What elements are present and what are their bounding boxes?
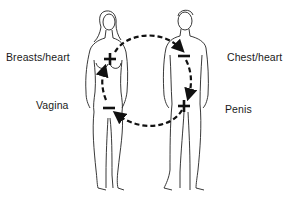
pole-signs [103, 53, 190, 112]
plus-sign-woman-breasts [104, 53, 116, 65]
label-vagina: Vagina [36, 99, 69, 111]
man-figure [163, 10, 208, 190]
flow-arrow-top [115, 36, 180, 52]
woman-figure [86, 11, 128, 190]
plus-sign-man-penis [178, 100, 190, 112]
energy-flow-arrows [102, 36, 191, 126]
label-breasts-heart: Breasts/heart [6, 51, 70, 63]
label-chest-heart: Chest/heart [227, 51, 282, 63]
label-penis: Penis [225, 103, 252, 115]
flow-arrow-bottom [118, 110, 182, 126]
flow-arrow-right [186, 60, 191, 95]
flow-arrow-left [102, 70, 106, 100]
